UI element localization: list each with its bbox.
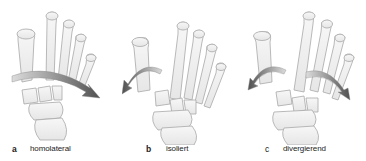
panel-letter: c <box>265 144 269 154</box>
foot-skeleton-illustration <box>242 0 366 145</box>
panel-a-homolateral: a homolateral <box>0 0 122 161</box>
panel-label: isoliert <box>166 144 188 153</box>
panel-label: homolateral <box>30 144 71 153</box>
panel-label: divergierend <box>283 144 326 153</box>
panel-c-divergierend: c divergierend <box>242 0 366 161</box>
panel-letter: a <box>12 144 17 154</box>
panel-letter: b <box>146 144 151 154</box>
panel-b-isoliert: b isoliert <box>122 0 242 161</box>
foot-skeleton-illustration <box>0 0 122 145</box>
foot-skeleton-illustration <box>122 0 242 145</box>
